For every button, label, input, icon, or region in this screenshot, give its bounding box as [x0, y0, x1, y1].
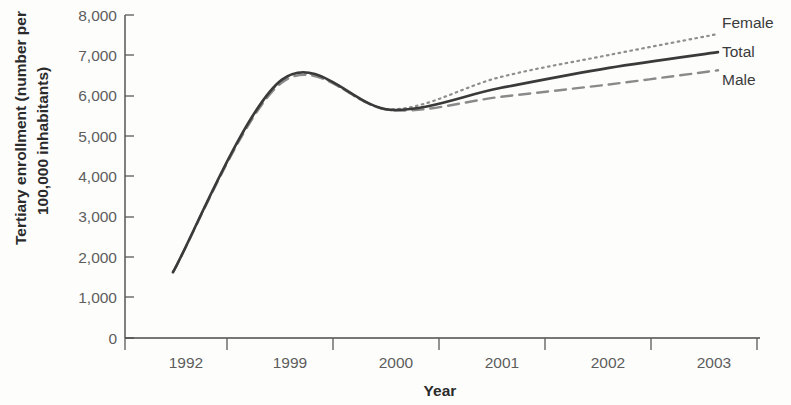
line-chart: Tertiary enrollment (number per 100,000 … — [0, 0, 791, 405]
x-tick-label-2002: 2002 — [591, 354, 625, 371]
y-tick-label-2000: 2,000 — [78, 249, 117, 266]
y-tick-label-7000: 7,000 — [78, 47, 117, 64]
y-axis-title-line2: 100,000 inhabitants) — [34, 67, 51, 215]
series-line-female — [173, 34, 718, 272]
series-line-male — [173, 70, 718, 272]
x-tick-label-2001: 2001 — [485, 354, 519, 371]
y-tick-label-8000: 8,000 — [78, 7, 117, 24]
x-tick-label-1992: 1992 — [169, 354, 203, 371]
series-label-female: Female — [722, 14, 774, 31]
y-tick-label-4000: 4,000 — [78, 168, 117, 185]
y-tick-label-1000: 1,000 — [78, 289, 117, 306]
x-tick-marks — [125, 338, 757, 350]
chart-figure: Tertiary enrollment (number per 100,000 … — [0, 0, 791, 405]
y-tick-label-5000: 5,000 — [78, 128, 117, 145]
y-tick-label-0: 0 — [108, 330, 117, 347]
x-tick-label-2003: 2003 — [697, 354, 731, 371]
x-axis-title: Year — [424, 382, 457, 399]
series-label-total: Total — [722, 43, 755, 60]
y-tick-marks — [125, 15, 134, 338]
y-tick-label-6000: 6,000 — [78, 87, 117, 104]
series-label-male: Male — [722, 71, 756, 88]
x-tick-label-1999: 1999 — [273, 354, 307, 371]
y-axis-title-line1: Tertiary enrollment (number per — [12, 11, 29, 245]
series-line-total — [173, 52, 718, 272]
y-tick-label-3000: 3,000 — [78, 208, 117, 225]
x-tick-label-2000: 2000 — [379, 354, 414, 371]
